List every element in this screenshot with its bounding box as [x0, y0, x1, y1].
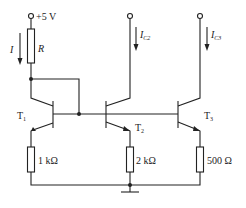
t3-label: T3 [204, 110, 213, 122]
current-i-label: I [9, 44, 14, 55]
supply-terminal [29, 14, 34, 19]
resistor-2k [127, 147, 134, 172]
ic2-label: IC2 [139, 29, 150, 41]
circuit-diagram: +5 V R I T1 IC2 T2 [0, 0, 246, 208]
t1-label: T1 [17, 110, 26, 122]
current-i-arrow-icon [18, 33, 23, 65]
resistor-500-label: 500 Ω [207, 155, 232, 166]
transistor-t2 [106, 19, 130, 148]
t2-label: T2 [135, 122, 144, 134]
supply-label: +5 V [36, 11, 57, 22]
ic3-arrow-icon [205, 27, 210, 51]
resistor-500 [197, 147, 204, 172]
resistor-r [28, 29, 35, 63]
resistor-r-label: R [37, 43, 44, 54]
ic2-arrow-icon [134, 27, 139, 51]
c3-terminal [198, 14, 203, 19]
c2-terminal [128, 14, 133, 19]
transistor-t1 [31, 79, 53, 147]
resistor-2k-label: 2 kΩ [136, 155, 156, 166]
transistor-t3 [178, 19, 200, 148]
resistor-1k-label: 1 kΩ [38, 155, 58, 166]
ic3-label: IC3 [210, 29, 221, 41]
junction-dot [128, 183, 132, 187]
resistor-1k [28, 147, 35, 172]
